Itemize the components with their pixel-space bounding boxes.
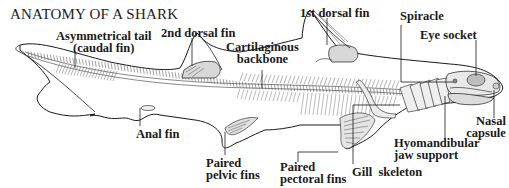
vertebra-tick — [383, 89, 384, 95]
rib-tick — [280, 75, 283, 83]
rib-tick — [376, 80, 379, 88]
label-backbone: Cartilaginous backbone — [226, 41, 299, 65]
rib-tick — [304, 76, 307, 84]
shark-anatomy-diagram: ANATOMY OF A SHARK Asymmetrical tail (ca… — [0, 0, 509, 188]
vertebra-tick — [92, 61, 93, 67]
rib-tick — [268, 75, 271, 83]
vertebra-tick — [310, 86, 311, 92]
vertebra-tick — [284, 85, 285, 91]
rib-tick — [260, 74, 263, 82]
rib-tick — [388, 80, 391, 88]
vertebra-tick — [105, 62, 106, 68]
vertebra-tick — [178, 73, 179, 79]
vertebra-tick — [95, 61, 96, 67]
label-gill-skeleton: Gill skeleton — [352, 166, 422, 178]
label-spiracle: Spiracle — [400, 10, 444, 22]
rib-tick — [281, 92, 284, 102]
rib-tick — [272, 75, 275, 83]
rib-tick — [392, 80, 395, 88]
vertebra-tick — [41, 53, 42, 59]
rib-tick — [292, 76, 295, 84]
rib-tick — [248, 74, 251, 82]
vertebra-tick — [175, 72, 176, 78]
rib-tick — [344, 78, 347, 86]
rib-tick — [352, 79, 355, 87]
rib-tick — [372, 79, 375, 87]
label-pelvic-line2: pelvic fins — [206, 169, 260, 181]
vertebra-tick — [380, 89, 381, 95]
vertebra-tick — [73, 58, 74, 64]
rib-tick — [337, 94, 340, 116]
rib-tick — [273, 91, 276, 101]
vertebra-tick — [121, 65, 122, 71]
rib-tick — [293, 92, 296, 102]
label-backbone-line2: backbone — [226, 53, 299, 65]
vertebra-tick — [82, 59, 83, 65]
spiracle-opening — [453, 79, 457, 83]
vertebra-tick — [63, 56, 64, 62]
vertebra-tick — [124, 65, 125, 71]
vertebra-tick — [98, 61, 99, 67]
rib-tick — [301, 92, 304, 114]
label-pectoral-fins: Paired pectoral fins — [280, 161, 346, 185]
vertebra-tick — [287, 85, 288, 91]
rib-tick — [284, 76, 287, 84]
rib-tick — [309, 93, 312, 115]
rib-tick — [349, 95, 352, 117]
vertebra-tick — [354, 88, 355, 94]
rib-tick — [244, 73, 247, 81]
rib-tick — [320, 77, 323, 85]
vertebra-tick — [159, 70, 160, 76]
caudal-ray — [59, 63, 63, 73]
rib-tick — [332, 78, 335, 86]
vertebra-tick — [370, 88, 371, 94]
vertebra-tick — [140, 67, 141, 73]
caudal-ray — [68, 65, 72, 75]
rib-tick — [241, 89, 244, 99]
rib-tick — [252, 74, 255, 82]
vertebra-tick — [57, 56, 58, 62]
vertebra-tick — [246, 82, 247, 88]
rib-tick — [377, 96, 380, 106]
rib-tick — [257, 90, 260, 100]
vertebra-tick — [111, 63, 112, 69]
rib-tick — [313, 93, 316, 115]
rib-tick — [285, 92, 288, 102]
rib-tick — [297, 92, 300, 102]
diagram-title: ANATOMY OF A SHARK — [10, 6, 178, 23]
vertebra-tick — [47, 54, 48, 60]
rib-tick — [265, 91, 268, 101]
vertebra-tick — [351, 87, 352, 93]
gill-arches — [400, 78, 450, 112]
rib-tick — [381, 96, 384, 106]
rib-tick — [264, 75, 267, 83]
rib-tick — [348, 78, 351, 86]
caudal-ray — [65, 64, 69, 74]
vertebra-tick — [393, 89, 394, 95]
vertebra-tick — [220, 79, 221, 85]
label-second-dorsal-fin: 2nd dorsal fin — [161, 27, 235, 39]
vertebra-tick — [306, 86, 307, 92]
vertebra-tick — [102, 62, 103, 68]
label-eye-socket: Eye socket — [420, 29, 477, 41]
label-pelvic-fins: Paired pelvic fins — [206, 157, 260, 181]
rib-tick — [321, 93, 324, 115]
vertebra-tick — [146, 68, 147, 74]
vertebra-tick — [322, 86, 323, 92]
rib-tick — [336, 78, 339, 86]
rib-tick — [237, 89, 240, 99]
caudal-ray — [62, 64, 66, 74]
rib-tick — [276, 75, 279, 83]
pectoral-girdle — [356, 80, 396, 118]
rib-ticks — [56, 63, 399, 118]
rib-tick — [305, 93, 308, 115]
vertebra-tick — [127, 66, 128, 72]
vertebra-tick — [130, 66, 131, 72]
vertebra-tick — [156, 70, 157, 76]
vertebra-tick — [79, 59, 80, 65]
rib-tick — [256, 74, 259, 82]
caudal-ray — [77, 66, 81, 76]
vertebra-tick — [348, 87, 349, 93]
vertebra-tick — [342, 87, 343, 93]
rib-tick — [249, 90, 252, 100]
